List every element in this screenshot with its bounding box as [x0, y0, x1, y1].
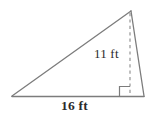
geometry-figure: 11 ft 16 ft: [0, 0, 156, 116]
height-label: 11 ft: [94, 47, 119, 60]
base-label: 16 ft: [61, 99, 88, 113]
right-angle-marker: [120, 87, 131, 97]
triangle-right-side: [131, 11, 144, 96]
